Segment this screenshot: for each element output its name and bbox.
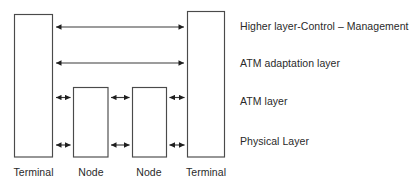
node-1-box — [74, 88, 109, 158]
column-label-node-2: Node — [123, 167, 175, 178]
column-label-node-1: Node — [65, 167, 117, 178]
layer-label-atm: ATM layer — [240, 96, 288, 107]
column-label-terminal-left: Terminal — [8, 167, 59, 178]
column-label-terminal-right: Terminal — [180, 167, 232, 178]
layer-label-aal: ATM adaptation layer — [240, 58, 340, 69]
layer-label-higher-layer: Higher layer-Control – Management — [240, 21, 409, 32]
terminal-left-box — [15, 15, 53, 158]
diagram-canvas: Higher layer-Control – Management ATM ad… — [0, 0, 415, 193]
layer-label-physical: Physical Layer — [240, 136, 309, 147]
terminal-right-box — [188, 12, 225, 158]
node-2-box — [133, 88, 167, 158]
